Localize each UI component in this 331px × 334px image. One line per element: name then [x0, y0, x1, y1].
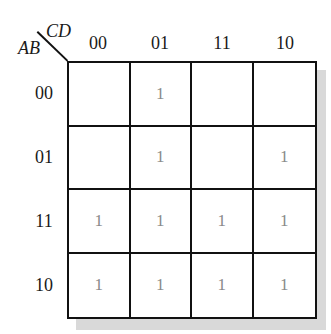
kmap-cell	[254, 63, 316, 127]
kmap-cell: 1	[254, 254, 316, 318]
kmap-cell: 1	[131, 63, 193, 127]
kmap-cell: 1	[69, 254, 131, 318]
kmap-cell: 1	[69, 190, 131, 254]
kmap-cell: 1	[192, 254, 254, 318]
row-variable-label: AB	[18, 38, 40, 59]
row-header: 01	[26, 147, 62, 168]
kmap-cell: 1	[254, 127, 316, 191]
kmap-cell	[69, 127, 131, 191]
kmap-grid: 1 1 1 1 1 1 1 1 1 1 1	[67, 61, 317, 319]
kmap-cell	[192, 127, 254, 191]
kmap-cell: 1	[131, 190, 193, 254]
row-header: 00	[26, 83, 62, 104]
kmap-cell: 1	[131, 254, 193, 318]
row-header: 11	[26, 211, 62, 232]
kmap-cell: 1	[254, 190, 316, 254]
col-header: 10	[254, 33, 316, 54]
col-header: 01	[129, 33, 191, 54]
kmap-cell: 1	[192, 190, 254, 254]
col-header: 11	[191, 33, 253, 54]
row-header: 10	[26, 275, 62, 296]
kmap-cell: 1	[131, 127, 193, 191]
col-header: 00	[67, 33, 129, 54]
kmap-cell	[69, 63, 131, 127]
kmap-cell	[192, 63, 254, 127]
